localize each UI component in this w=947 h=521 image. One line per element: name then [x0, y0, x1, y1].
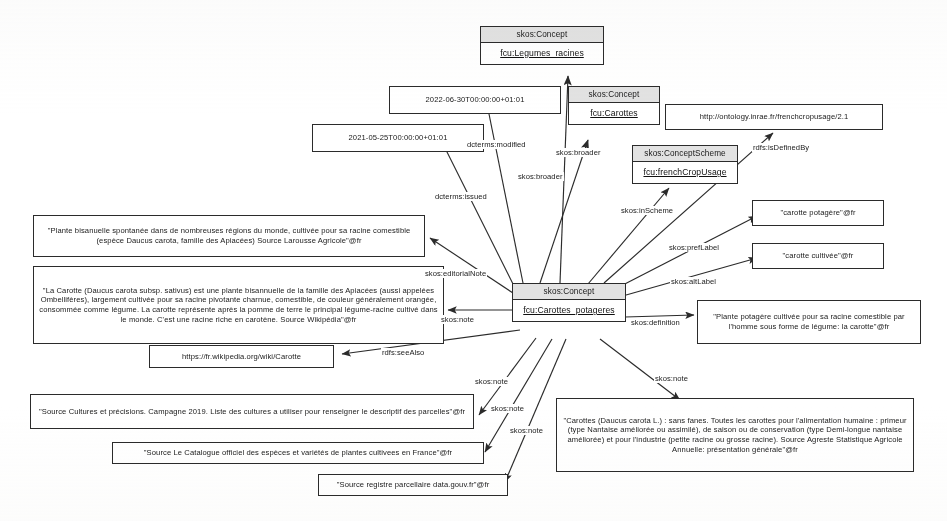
literal-editorial-note[interactable]: "Plante bisanuelle spontanée dans de nom…: [33, 215, 425, 257]
node-header: skos:Concept: [569, 87, 659, 103]
literal-note-wikipedia[interactable]: "La Carotte (Daucus carota subsp. sativu…: [33, 266, 444, 344]
literal-note-agreste[interactable]: "Carottes (Daucus carota L.) : sans fane…: [556, 398, 914, 472]
literal-is-defined-by[interactable]: http://ontology.inrae.fr/frenchcropusage…: [665, 104, 883, 130]
edge-label-skos-pref-label: skos:prefLabel: [668, 243, 720, 252]
literal-note-catalogue[interactable]: "Source Le Catalogue officiel des espèce…: [112, 442, 484, 464]
node-concept-scheme[interactable]: skos:ConceptScheme fcu:frenchCropUsage: [632, 145, 738, 184]
edge-label-skos-editorial-note: skos:editorialNote: [424, 269, 487, 278]
node-legumes-racines[interactable]: skos:Concept fcu:Legumes_racines: [480, 26, 604, 65]
node-carottes[interactable]: skos:Concept fcu:Carottes: [568, 86, 660, 125]
node-header: skos:Concept: [513, 284, 625, 300]
literal-dcterms-issued[interactable]: 2021-05-25T00:00:00+01:01: [312, 124, 484, 152]
literal-definition[interactable]: "Plante potagère cultivée pour sa racine…: [697, 300, 921, 344]
edge-label-skos-definition: skos:definition: [630, 318, 681, 327]
node-carottes-potageres[interactable]: skos:Concept fcu:Carottes_potageres: [512, 283, 626, 322]
literal-dcterms-modified[interactable]: 2022-06-30T00:00:00+01:01: [389, 86, 561, 114]
edge-label-skos-note-cultures: skos:note: [474, 377, 509, 386]
edge-label-rdfs-see-also: rdfs:seeAlso: [381, 348, 425, 357]
edge-label-skos-note-registre: skos:note: [509, 426, 544, 435]
literal-see-also[interactable]: https://fr.wikipedia.org/wiki/Carotte: [149, 345, 334, 368]
node-header: skos:Concept: [481, 27, 603, 43]
diagram-canvas: skos:Concept fcu:Legumes_racines skos:Co…: [0, 0, 947, 521]
literal-note-cultures[interactable]: "Source Cultures et précisions. Campagne…: [30, 394, 474, 429]
edge-label-skos-alt-label: skos:altLabel: [670, 277, 717, 286]
edge-label-rdfs-is-defined-by: rdfs:isDefinedBy: [752, 143, 810, 152]
edge-label-skos-note-wikipedia: skos:note: [440, 315, 475, 324]
edge-label-skos-note-agreste: skos:note: [654, 374, 689, 383]
edge-label-dcterms-modified: dcterms:modified: [466, 140, 527, 149]
literal-alt-label[interactable]: "carotte cultivée"@fr: [752, 243, 884, 269]
edge-label-skos-note-catalogue: skos:note: [490, 404, 525, 413]
literal-pref-label[interactable]: "carotte potagère"@fr: [752, 200, 884, 226]
node-uri: fcu:Carottes: [569, 103, 659, 124]
edge-label-skos-in-scheme: skos:inScheme: [620, 206, 674, 215]
edge-label-dcterms-issued: dcterms:issued: [434, 192, 488, 201]
edge-label-skos-broader-legumes: skos:broader: [517, 172, 564, 181]
node-header: skos:ConceptScheme: [633, 146, 737, 162]
node-uri: fcu:Carottes_potageres: [513, 300, 625, 321]
edge-label-skos-broader-carottes: skos:broader: [555, 148, 602, 157]
literal-note-registre[interactable]: "Source registre parcellaire data.gouv.f…: [318, 474, 508, 496]
node-uri: fcu:Legumes_racines: [481, 43, 603, 64]
node-uri: fcu:frenchCropUsage: [633, 162, 737, 183]
